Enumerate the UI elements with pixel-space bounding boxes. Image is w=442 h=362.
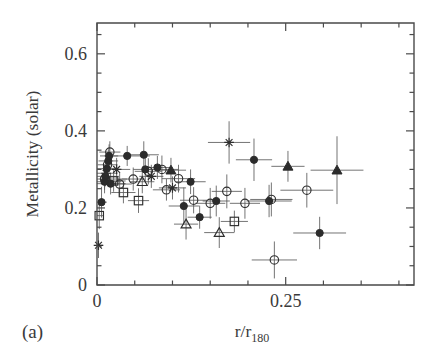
- y-tick-label: 0: [78, 275, 87, 295]
- errorbar-layer: [97, 121, 363, 278]
- marker-filled-circle: [213, 197, 220, 204]
- marker-filled-triangle: [332, 165, 342, 174]
- marker-filled-triangle: [283, 161, 293, 170]
- x-axis-title-base: r/r: [235, 321, 252, 341]
- marker-asterisk: [94, 241, 104, 251]
- x-tick-label: 0.25: [270, 291, 302, 311]
- x-axis-title-subscript: 180: [251, 331, 269, 345]
- x-tick-label: 0: [93, 291, 102, 311]
- marker-filled-circle: [140, 151, 147, 158]
- plot-canvas: 00.25 00.20.40.6 Metallicity (solar) r/r…: [0, 0, 442, 362]
- x-axis-tick-labels: 00.25: [93, 291, 302, 311]
- marker-filled-circle: [316, 229, 323, 236]
- marker-filled-circle: [196, 214, 203, 221]
- y-tick-label: 0.4: [65, 121, 88, 141]
- marker-asterisk: [224, 138, 234, 148]
- marker-filled-circle: [98, 199, 105, 206]
- marker-asterisk: [147, 172, 157, 182]
- marker-filled-circle: [180, 202, 187, 209]
- y-tick-label: 0.2: [65, 198, 88, 218]
- marker-asterisk: [168, 183, 178, 193]
- marker-filled-circle: [107, 180, 114, 187]
- marker-filled-circle: [250, 156, 257, 163]
- marker-asterisk: [112, 165, 122, 175]
- y-axis-title: Metallicity (solar): [22, 90, 42, 217]
- y-tick-label: 0.6: [65, 44, 88, 64]
- marker-filled-circle: [187, 178, 194, 185]
- y-axis-tick-labels: 00.20.40.6: [65, 44, 88, 295]
- x-axis-title: r/r180: [235, 321, 270, 345]
- panel-label: (a): [22, 321, 43, 343]
- scatter-plot-figure: 00.25 00.20.40.6 Metallicity (solar) r/r…: [0, 0, 442, 362]
- marker-filled-circle: [124, 152, 131, 159]
